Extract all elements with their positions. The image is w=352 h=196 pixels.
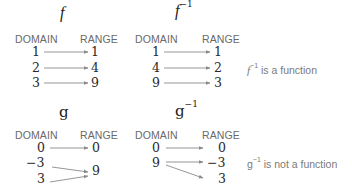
arrow-icon — [166, 165, 203, 178]
arrow-icon — [52, 167, 88, 172]
arrow-icon — [50, 176, 88, 182]
mapping-arrows — [0, 0, 352, 196]
